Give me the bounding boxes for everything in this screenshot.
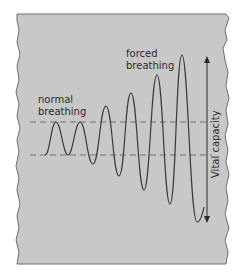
forced-breathing-label-line1: forced xyxy=(126,48,158,59)
spirogram-diagram: normal breathing forced breathing Vital … xyxy=(0,0,243,275)
panel-background xyxy=(16,14,229,264)
forced-breathing-label-line2: breathing xyxy=(126,60,174,71)
normal-breathing-label-line2: breathing xyxy=(38,106,86,117)
vital-capacity-label: Vital capacity xyxy=(210,110,221,178)
normal-breathing-label-line1: normal xyxy=(38,94,73,105)
